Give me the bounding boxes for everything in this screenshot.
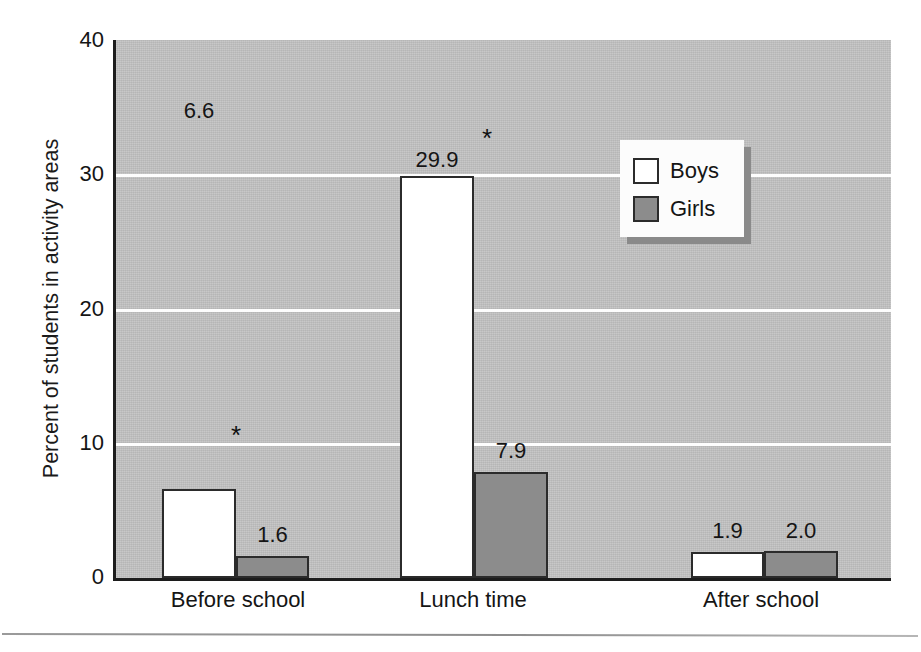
gridline-20 — [116, 309, 891, 312]
bar-chart-figure: Percent of students in activity areas 40… — [0, 0, 921, 652]
legend: Boys Girls — [620, 140, 744, 237]
y-tick-0: 0 — [56, 566, 104, 588]
legend-entry-girls[interactable]: Girls — [633, 192, 715, 226]
bar-boys-lunch-time[interactable] — [400, 176, 474, 578]
bar-girls-lunch-time[interactable] — [474, 472, 548, 578]
gridline-30 — [116, 174, 891, 177]
bar-value-girls-after-school: 2.0 — [764, 520, 838, 542]
legend-label-boys: Boys — [670, 160, 719, 182]
legend-entry-boys[interactable]: Boys — [633, 154, 719, 188]
bar-value-boys-after-school: 1.9 — [691, 520, 764, 542]
legend-swatch-boys-icon — [633, 158, 659, 184]
y-tick-10: 10 — [56, 432, 104, 454]
y-axis-tick-labels: 40 30 20 10 0 — [52, 0, 104, 652]
footer-divider — [2, 633, 918, 637]
plot-area: 6.6 1.6 * 7.9 * 29.9 1.9 2.0 — [113, 40, 891, 581]
bar-value-girls-before-school: 1.6 — [236, 524, 309, 546]
y-tick-20: 20 — [56, 298, 104, 320]
y-tick-30: 30 — [56, 163, 104, 185]
legend-label-girls: Girls — [670, 198, 715, 220]
x-tick-before-school: Before school — [113, 588, 363, 612]
bar-value-girls-lunch-time: 7.9 — [474, 440, 548, 462]
bar-value-boys-before-school: 6.6 — [162, 100, 236, 122]
significance-star-before-school: * — [216, 422, 256, 448]
legend-swatch-girls-icon — [633, 196, 659, 222]
bar-girls-after-school[interactable] — [764, 551, 838, 578]
bar-boys-before-school[interactable] — [162, 489, 236, 578]
y-tick-40: 40 — [56, 29, 104, 51]
bar-girls-before-school[interactable] — [236, 556, 309, 578]
x-axis-tick-labels: Before school Lunch time After school — [113, 588, 888, 628]
significance-star-lunch-time: * — [467, 125, 507, 151]
x-tick-after-school: After school — [636, 588, 886, 612]
x-tick-lunch-time: Lunch time — [353, 588, 593, 612]
legend-box: Boys Girls — [620, 140, 744, 237]
bar-value-boys-lunch-time: 29.9 — [393, 149, 481, 171]
bar-boys-after-school[interactable] — [691, 552, 764, 578]
